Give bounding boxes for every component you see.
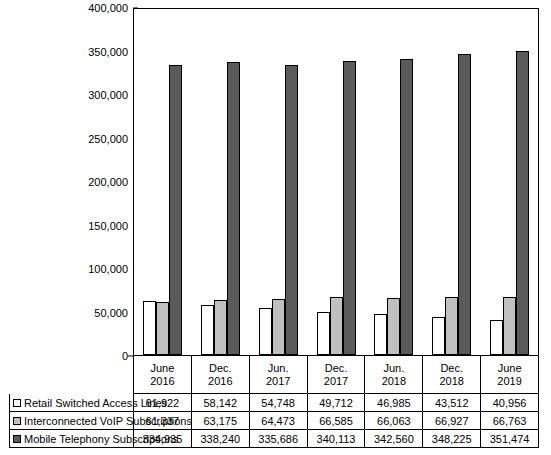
data-value-cell: 63,175 xyxy=(192,412,250,429)
category-line-2: 2016 xyxy=(208,375,232,388)
y-axis-tick-label: 200,000 xyxy=(88,176,128,188)
x-axis-category-label: Jun.2017 xyxy=(250,356,308,393)
data-value-cell: 58,142 xyxy=(192,394,250,411)
legend-color-swatch xyxy=(13,399,21,407)
data-value-cell: 338,240 xyxy=(192,430,250,447)
data-value-cell: 49,712 xyxy=(308,394,366,411)
category-line-1: Jun. xyxy=(383,362,404,375)
bar xyxy=(201,305,214,355)
category-line-2: 2018 xyxy=(439,375,463,388)
y-axis-tick-label: 150,000 xyxy=(88,220,128,232)
x-axis-category-label: Dec.2016 xyxy=(192,356,250,393)
bar xyxy=(387,298,400,355)
bar xyxy=(490,320,503,355)
bar xyxy=(343,61,356,355)
legend-value-cells: 61,92258,14254,74849,71246,98543,51240,9… xyxy=(134,394,538,411)
category-line-1: June xyxy=(498,362,522,375)
chart-page: 0 50,000 100,000 150,000 200,000 250,000… xyxy=(0,0,551,455)
category-line-2: 2017 xyxy=(324,375,348,388)
bar xyxy=(516,51,529,355)
x-axis-category-label: June2016 xyxy=(134,356,192,393)
data-value-cell: 348,225 xyxy=(423,430,481,447)
bar-group xyxy=(423,9,481,355)
legend-series-name: Mobile Telephony Subscriptions xyxy=(10,430,134,447)
plot-area xyxy=(133,8,539,356)
bar xyxy=(143,301,156,355)
data-value-cell: 66,763 xyxy=(481,412,538,429)
category-line-1: Dec. xyxy=(209,362,232,375)
data-value-cell: 342,560 xyxy=(365,430,423,447)
x-axis-category-row: June2016Dec.2016Jun.2017Dec.2017Jun.2018… xyxy=(133,356,539,394)
bar xyxy=(445,297,458,355)
bar xyxy=(432,317,445,355)
legend-row: Mobile Telephony Subscriptions334,935338… xyxy=(10,430,538,447)
category-line-1: Jun. xyxy=(268,362,289,375)
bar xyxy=(259,308,272,355)
bar xyxy=(272,299,285,355)
data-value-cell: 40,956 xyxy=(481,394,538,411)
data-value-cell: 340,113 xyxy=(308,430,366,447)
legend-color-swatch xyxy=(13,417,21,425)
bar-group xyxy=(365,9,423,355)
legend-value-cells: 334,935338,240335,686340,113342,560348,2… xyxy=(134,430,538,447)
bar xyxy=(317,312,330,355)
y-axis-tick-label: 50,000 xyxy=(94,307,128,319)
bar xyxy=(374,314,387,355)
category-line-2: 2016 xyxy=(150,375,174,388)
x-axis-category-label: Dec.2018 xyxy=(423,356,481,393)
category-line-2: 2017 xyxy=(266,375,290,388)
bars-layer xyxy=(134,9,538,355)
category-line-2: 2019 xyxy=(497,375,521,388)
y-axis-tick-label: 300,000 xyxy=(88,89,128,101)
legend-series-name: Retail Switched Access Lines xyxy=(10,394,134,411)
legend-color-swatch xyxy=(13,435,21,443)
y-axis-tick-label: 400,000 xyxy=(88,2,128,14)
legend-row: Interconnected VoIP Subscriptions61,3376… xyxy=(10,412,538,430)
x-axis-category-label: Jun.2018 xyxy=(365,356,423,393)
legend-series-name: Interconnected VoIP Subscriptions xyxy=(10,412,134,429)
data-value-cell: 54,748 xyxy=(250,394,308,411)
bar xyxy=(285,65,298,355)
data-value-cell: 61,337 xyxy=(134,412,192,429)
category-line-1: Dec. xyxy=(440,362,463,375)
y-axis-tick-label: 350,000 xyxy=(88,46,128,58)
bar xyxy=(227,62,240,355)
data-value-cell: 334,935 xyxy=(134,430,192,447)
data-value-cell: 64,473 xyxy=(250,412,308,429)
category-line-2: 2018 xyxy=(382,375,406,388)
bar xyxy=(169,65,182,355)
data-value-cell: 66,063 xyxy=(365,412,423,429)
data-value-cell: 335,686 xyxy=(250,430,308,447)
bar-group xyxy=(192,9,250,355)
data-value-cell: 66,585 xyxy=(308,412,366,429)
data-value-cell: 61,922 xyxy=(134,394,192,411)
category-line-1: June xyxy=(151,362,175,375)
bar-group xyxy=(249,9,307,355)
x-axis-category-label: Dec.2017 xyxy=(308,356,366,393)
data-value-cell: 43,512 xyxy=(423,394,481,411)
category-line-1: Dec. xyxy=(325,362,348,375)
bar xyxy=(156,302,169,355)
y-axis-labels: 0 50,000 100,000 150,000 200,000 250,000… xyxy=(60,8,128,356)
y-axis-tick-label: 100,000 xyxy=(88,263,128,275)
data-value-cell: 46,985 xyxy=(365,394,423,411)
y-axis-tick-label: 250,000 xyxy=(88,133,128,145)
bar xyxy=(400,59,413,355)
data-value-cell: 351,474 xyxy=(481,430,538,447)
bar xyxy=(503,297,516,355)
legend-value-table: Retail Switched Access Lines61,92258,142… xyxy=(9,394,539,448)
bar-group xyxy=(134,9,192,355)
bar xyxy=(458,54,471,355)
data-value-cell: 66,927 xyxy=(423,412,481,429)
x-axis-category-label: June2019 xyxy=(481,356,538,393)
bar-group xyxy=(480,9,538,355)
bar xyxy=(330,297,343,355)
bar-group xyxy=(307,9,365,355)
legend-row: Retail Switched Access Lines61,92258,142… xyxy=(10,394,538,412)
legend-value-cells: 61,33763,17564,47366,58566,06366,92766,7… xyxy=(134,412,538,429)
bar xyxy=(214,300,227,355)
